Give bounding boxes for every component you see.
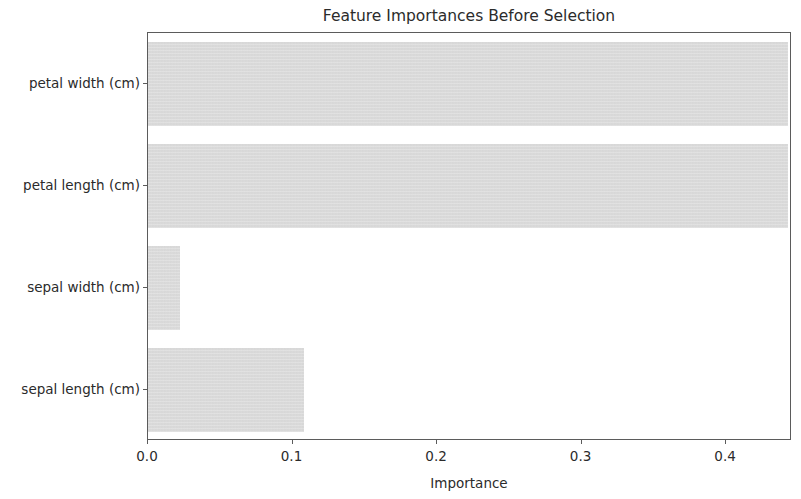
x-axis-tick-mark bbox=[147, 440, 148, 444]
figure-canvas: Feature Importances Before Selection sep… bbox=[0, 0, 801, 499]
bar bbox=[148, 42, 788, 126]
y-axis-tick-label: sepal width (cm) bbox=[27, 279, 140, 295]
plot-area bbox=[148, 33, 790, 439]
x-axis-tick-label: 0.3 bbox=[570, 447, 591, 465]
y-axis-tick-label: petal length (cm) bbox=[23, 177, 140, 193]
x-axis-label: Importance bbox=[147, 474, 791, 492]
x-axis-tick-label-group: 0.00.10.20.30.4 bbox=[0, 447, 801, 467]
x-axis-tick-label: 0.2 bbox=[425, 447, 446, 465]
chart-title: Feature Importances Before Selection bbox=[147, 6, 791, 26]
plot-axes bbox=[147, 32, 791, 440]
x-axis-tick-label: 0.0 bbox=[136, 447, 157, 465]
y-axis-tick-label-group: sepal length (cm)sepal width (cm)petal l… bbox=[0, 32, 140, 440]
bar bbox=[148, 348, 304, 432]
x-axis-tick-mark-group bbox=[147, 440, 791, 445]
x-axis-tick-mark bbox=[581, 440, 582, 444]
y-axis-tick-label: sepal length (cm) bbox=[21, 381, 140, 397]
x-axis-tick-label: 0.4 bbox=[714, 447, 735, 465]
bar bbox=[148, 246, 180, 330]
x-axis-tick-label: 0.1 bbox=[281, 447, 302, 465]
x-axis-tick-mark bbox=[292, 440, 293, 444]
y-axis-tick-label: petal width (cm) bbox=[29, 75, 140, 91]
bar bbox=[148, 144, 788, 228]
x-axis-tick-mark bbox=[436, 440, 437, 444]
x-axis-tick-mark bbox=[725, 440, 726, 444]
